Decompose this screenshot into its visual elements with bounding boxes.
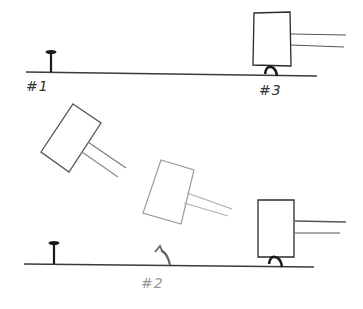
upright-nail-icon xyxy=(46,50,57,72)
stage-label-2: #2 xyxy=(141,275,164,291)
bottom-panel xyxy=(24,200,346,267)
swinging-hammer-high xyxy=(41,104,126,177)
bent-nail-icon xyxy=(269,257,282,267)
stage-label-3: #3 xyxy=(259,82,282,98)
hammer-icon xyxy=(253,12,346,66)
stage-label-1: #1 xyxy=(26,78,49,94)
upright-nail-icon xyxy=(49,241,60,264)
hammer-icon xyxy=(258,200,346,257)
swinging-hammer-low xyxy=(143,160,232,224)
bent-nail-light-icon xyxy=(155,246,170,265)
nail-hammer-sketch xyxy=(0,0,363,309)
top-panel xyxy=(26,12,346,76)
top-ground-line xyxy=(26,72,317,76)
